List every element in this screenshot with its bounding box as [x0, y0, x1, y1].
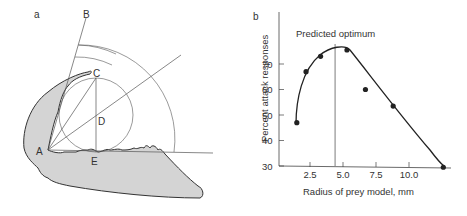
optimum-label: Predicted optimum [296, 28, 375, 39]
point-E-label: E [91, 156, 98, 167]
data-point [363, 87, 368, 92]
panel-a-label: a [34, 9, 40, 20]
y-axis-label: Percent attack responses [259, 35, 270, 142]
point-A-label: A [36, 146, 43, 157]
y-tick-label: 30 [262, 161, 273, 172]
panel-b: b 3040506070 2.55.07.510.0 Percent attac… [253, 11, 451, 197]
inner-arc [75, 57, 112, 65]
point-B-label: B [83, 9, 90, 20]
point-D-label: D [98, 116, 105, 127]
data-points [294, 47, 446, 169]
x-tick-label: 2.5 [303, 169, 316, 180]
line-A-diagonal [48, 55, 181, 150]
data-point [391, 103, 396, 108]
x-tick-label: 7.5 [369, 169, 382, 180]
line-AB [48, 18, 86, 150]
figure: a B C D A E b 3040506070 2.55.07.510.0 P… [0, 0, 467, 216]
data-point [344, 47, 349, 52]
fitted-curve [296, 47, 444, 166]
claw-shape [24, 71, 203, 198]
x-axis-label: Radius of prey model, mm [303, 186, 414, 197]
data-point [318, 54, 323, 59]
panel-a: a B C D A E [24, 9, 213, 198]
x-tick-label: 5.0 [336, 169, 349, 180]
x-axis [279, 166, 451, 168]
x-tick-label: 10.0 [400, 169, 419, 180]
x-ticks: 2.55.07.510.0 [303, 162, 418, 180]
data-point [294, 120, 299, 125]
data-point [441, 165, 446, 170]
point-C-label: C [93, 68, 100, 79]
data-point [303, 69, 308, 74]
panel-b-label: b [253, 11, 259, 22]
